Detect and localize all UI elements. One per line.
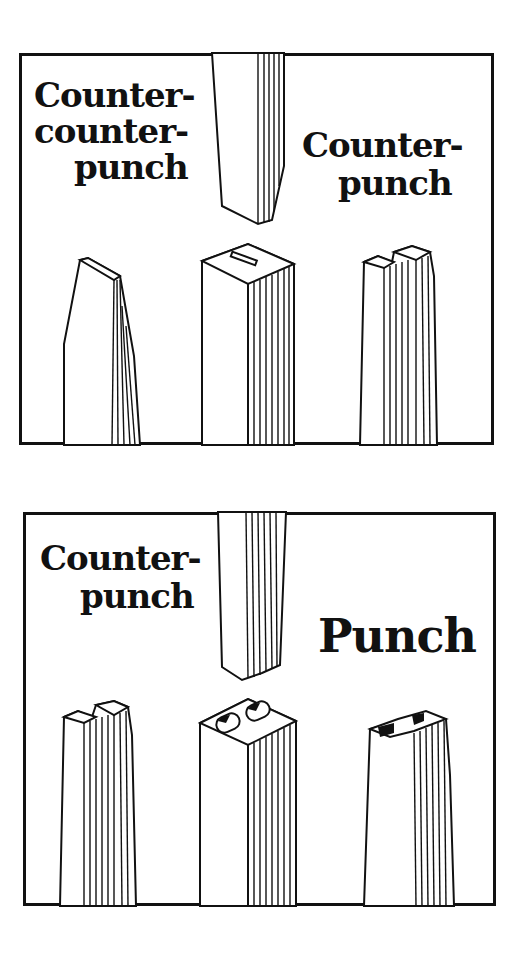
label-counter-counterpunch: Counter- counter- punch: [34, 78, 195, 184]
counterpunch-slot-icon: [202, 244, 294, 445]
counterpunch-stepped-icon: [60, 701, 136, 906]
punch-letter-h-icon: [364, 711, 454, 906]
punch-letter-b-icon: [200, 699, 296, 906]
striking-tool-icon: [212, 53, 284, 224]
counterpunch-stepped-icon: [360, 246, 437, 445]
striking-tool-icon: [218, 512, 286, 680]
panel-counterpunch-punch: Counter- punch Punch: [23, 512, 496, 906]
label-counterpunch-top: Counter- punch: [302, 128, 463, 200]
panel-counter-counterpunch: Counter- counter- punch Counter- punch: [19, 53, 494, 445]
label-punch: Punch: [318, 613, 476, 659]
counter-counterpunch-icon: [64, 258, 140, 445]
label-counterpunch-bottom: Counter- punch: [40, 541, 201, 613]
